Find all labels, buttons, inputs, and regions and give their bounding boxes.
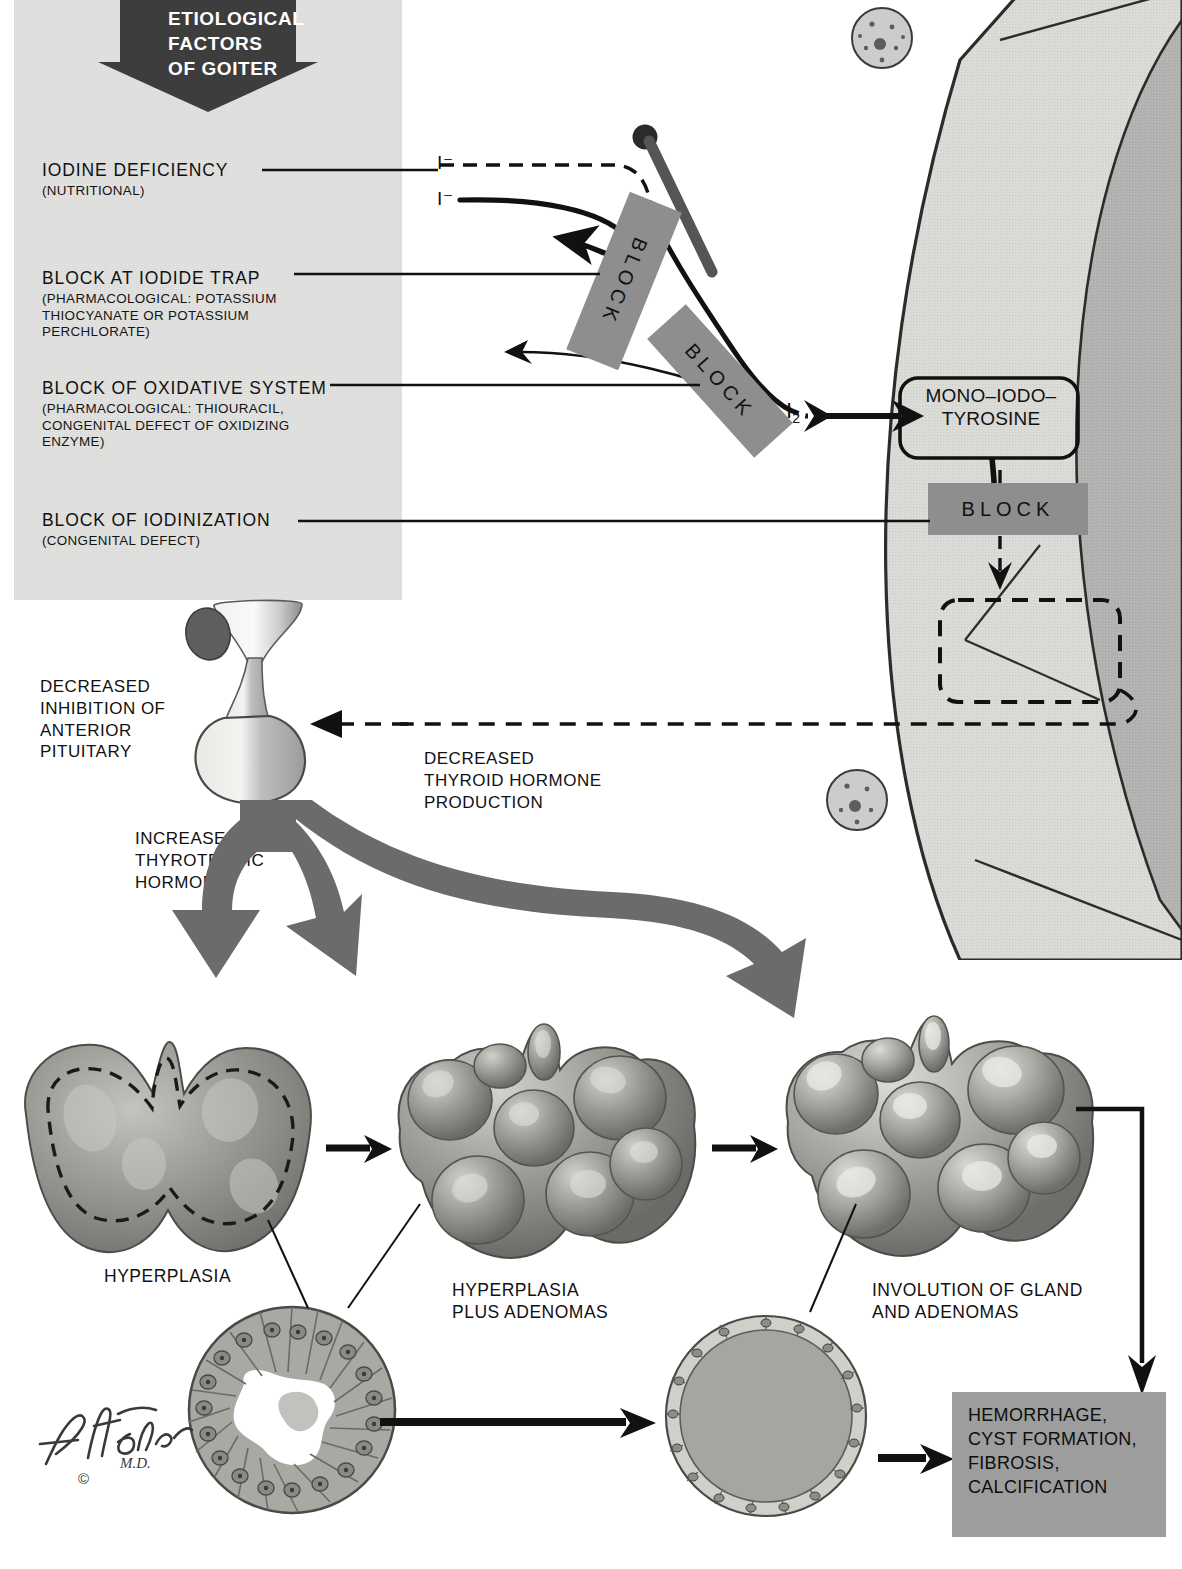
gland-2-line-2: PLUS ADENOMAS [452,1302,608,1324]
gland-progression-arrow-1 [326,1130,396,1172]
gland-label-hyperplasia: HYPERPLASIA [104,1266,231,1288]
outcome-arrow [878,1440,958,1480]
signature-copyright: © [78,1470,89,1484]
pituitary-label-line-2: INHIBITION OF [40,698,166,720]
follicle-progression-arrow [380,1404,660,1444]
follicle-leader-lines-left [250,1200,450,1320]
outcome-line-3: FIBROSIS, [968,1452,1173,1476]
hormone-label-line-2: THYROID HORMONE [424,770,602,792]
tsh-branching-arrows [140,800,860,1050]
pituitary-gland [152,598,352,818]
involuted-follicle-histology [658,1308,874,1524]
pituitary-label-line-4: PITUITARY [40,741,166,763]
hyperplastic-follicle-histology [178,1292,404,1527]
outcome-line-4: CALCIFICATION [968,1476,1173,1500]
hormone-label-line-1: DECREASED [424,748,602,770]
banner-line-3: OF GOITER [168,56,378,81]
involution-to-outcome-arrow [1060,1095,1170,1405]
gland-1-line-1: HYPERPLASIA [104,1266,231,1288]
gland-3-line-2: AND ADENOMAS [872,1302,1083,1324]
decreased-inhibition-label: DECREASED INHIBITION OF ANTERIOR PITUITA… [40,676,166,763]
gland-3-line-1: INVOLUTION OF GLAND [872,1280,1083,1302]
banner-line-1: ETIOLOGICAL [168,6,378,31]
outcome-line-2: CYST FORMATION, [968,1428,1173,1452]
gland-label-involution: INVOLUTION OF GLAND AND ADENOMAS [872,1280,1083,1324]
gland-label-hyperplasia-adenomas: HYPERPLASIA PLUS ADENOMAS [452,1280,608,1324]
outcome-text: HEMORRHAGE, CYST FORMATION, FIBROSIS, CA… [968,1404,1173,1500]
follicle-leader-line-right [790,1200,870,1320]
pituitary-label-line-1: DECREASED [40,676,166,698]
pituitary-label-line-3: ANTERIOR [40,720,166,742]
artist-signature: M.D. © [34,1392,204,1484]
etiological-factors-title: ETIOLOGICAL FACTORS OF GOITER [168,6,378,81]
signature-credential: M.D. [119,1455,151,1471]
illustration-canvas: BLOCK BLOCK BLOCK I⁻ I⁻ I2 MONO–IODO– TY… [0,0,1182,1569]
outcome-line-1: HEMORRHAGE, [968,1404,1173,1428]
gland-2-line-1: HYPERPLASIA [452,1280,608,1302]
banner-line-2: FACTORS [168,31,378,56]
gland-progression-arrow-2 [712,1130,782,1172]
